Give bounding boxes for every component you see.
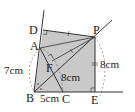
label-a: A (30, 39, 39, 53)
label-p: P (93, 23, 100, 37)
measure-ab: 7cm (4, 64, 23, 76)
label-b: B (26, 91, 34, 105)
angle-dot-1 (37, 83, 39, 85)
measure-bc: 5cm (40, 92, 59, 104)
label-c: C (62, 92, 70, 106)
measure-ac: 8cm (61, 71, 80, 83)
label-f: F (46, 61, 53, 75)
measure-pe: 8cm (100, 58, 119, 70)
label-e: E (91, 93, 98, 107)
geometry-diagram: D A B C E F P 7cm 5cm 8cm 8cm (0, 0, 135, 112)
angle-dot-2 (40, 88, 42, 90)
label-d: D (29, 23, 38, 37)
